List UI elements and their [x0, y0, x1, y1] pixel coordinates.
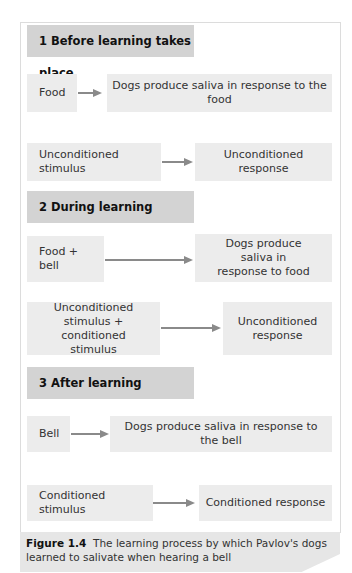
s3-response-box: Dogs produce saliva in response to the b…: [110, 416, 332, 452]
s2-term-stimulus-box: Unconditioned stimulus + conditioned sti…: [27, 302, 160, 355]
arrow-icon: [78, 89, 102, 97]
s3-term-response-box: Conditioned response: [199, 485, 332, 521]
arrow-icon: [153, 499, 195, 507]
s1-stimulus-box: Food: [27, 74, 77, 112]
arrow-icon: [162, 158, 193, 166]
section-3-header: 3 After learning: [27, 367, 194, 399]
figure-caption: Figure 1.4 The learning process by which…: [20, 532, 340, 572]
section-2-header: 2 During learning: [27, 191, 194, 223]
s1-response-box: Dogs produce saliva in response to the f…: [107, 74, 332, 112]
arrow-icon: [105, 256, 193, 264]
s1-term-stimulus-box: Unconditioned stimulus: [27, 143, 161, 181]
arrow-icon: [161, 324, 221, 332]
s2-response-box: Dogs produce saliva in response to food: [195, 234, 332, 282]
s2-term-response-box: Unconditioned response: [223, 302, 332, 355]
s3-term-stimulus-box: Conditioned stimulus: [27, 485, 153, 521]
section-1-header: 1 Before learning takes place: [27, 25, 194, 57]
arrow-icon: [71, 430, 109, 438]
s1-term-response-box: Unconditioned response: [195, 143, 332, 181]
s3-stimulus-box: Bell: [27, 416, 70, 452]
figure-label: Figure 1.4: [26, 537, 86, 549]
s2-stimulus-box: Food + bell: [27, 236, 104, 282]
